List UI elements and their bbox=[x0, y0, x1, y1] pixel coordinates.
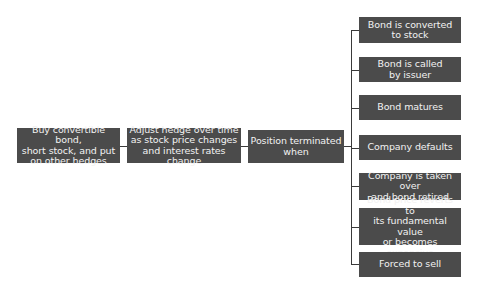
outcome-label: Bond is converted to stock bbox=[368, 20, 452, 41]
step-label: Buy convertible bond, short stock, and p… bbox=[19, 125, 118, 167]
branch-outcome6 bbox=[351, 227, 359, 228]
branch-outcome4 bbox=[351, 148, 359, 149]
outcome-label: Bond matures bbox=[377, 102, 443, 113]
outcome-company-defaults: Company defaults bbox=[359, 135, 461, 160]
step-adjust-hedge: Adjust hedge over time as stock price ch… bbox=[127, 128, 241, 163]
branch-outcome1 bbox=[351, 30, 359, 31]
outcome-price-reverts: Bond price reverts to its fundamental va… bbox=[359, 208, 461, 245]
branch-outcome5 bbox=[351, 186, 359, 187]
outcome-bond-called: Bond is called by issuer bbox=[359, 57, 461, 82]
outcome-label: Company defaults bbox=[368, 142, 453, 153]
branch-outcome3 bbox=[351, 108, 359, 109]
branch-outcome2 bbox=[351, 70, 359, 71]
outcome-bond-matures: Bond matures bbox=[359, 95, 461, 120]
outcome-label: Bond is called by issuer bbox=[378, 59, 443, 80]
outcome-bond-converted: Bond is converted to stock bbox=[359, 17, 461, 43]
step-label: Adjust hedge over time as stock price ch… bbox=[129, 125, 239, 167]
outcome-label: Forced to sell bbox=[379, 259, 441, 270]
step-label: Position terminated when bbox=[251, 136, 342, 157]
step-position-terminated: Position terminated when bbox=[248, 130, 344, 163]
branch-outcome7 bbox=[351, 264, 359, 265]
outcome-label: Bond price reverts to its fundamental va… bbox=[361, 195, 459, 258]
outcome-forced-to-sell: Forced to sell bbox=[359, 252, 461, 277]
step-buy-convertible-bond: Buy convertible bond, short stock, and p… bbox=[17, 128, 120, 163]
connector-step1-step2 bbox=[120, 146, 127, 147]
connector-step2-step3 bbox=[241, 146, 248, 147]
